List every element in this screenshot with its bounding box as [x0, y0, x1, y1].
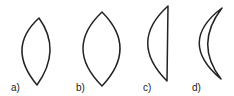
lens-d: d): [192, 8, 222, 93]
lens-diagram: a) b) c) d): [0, 0, 234, 96]
lens-c: c): [143, 6, 168, 93]
label-a: a): [11, 82, 20, 93]
lens-a: a): [11, 18, 50, 93]
meniscus-lens-icon: [199, 8, 222, 79]
label-c: c): [143, 82, 151, 93]
biconvex-lens-icon: [83, 12, 120, 86]
biconvex-lens-icon: [22, 18, 50, 85]
label-b: b): [76, 82, 85, 93]
label-d: d): [192, 82, 201, 93]
lens-b: b): [76, 12, 120, 93]
plano-convex-lens-icon: [148, 6, 168, 81]
